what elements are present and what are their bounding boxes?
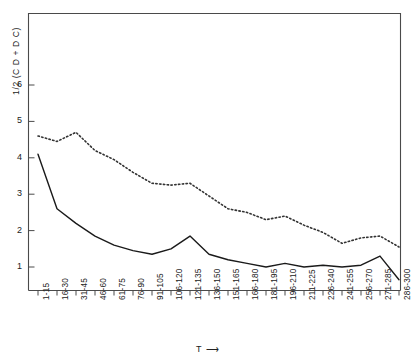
x-tick-label: 1-15 xyxy=(42,282,51,299)
y-tick-label: 1 xyxy=(6,261,22,271)
x-tick-label: 61-75 xyxy=(118,278,127,300)
series-dotted-upper xyxy=(38,132,399,247)
plot-area xyxy=(0,0,418,361)
x-tick-label: 16-30 xyxy=(61,278,70,300)
x-tick-label: 46-60 xyxy=(99,278,108,300)
x-tick-label: 166-180 xyxy=(251,268,260,299)
x-tick-label: 31-45 xyxy=(80,278,89,300)
x-tick-label: 136-150 xyxy=(213,268,222,299)
y-tick-label: 6 xyxy=(6,79,22,89)
x-tick-label: 211-225 xyxy=(308,269,317,300)
x-tick-label: 106-120 xyxy=(175,268,184,299)
x-tick-label: 226-240 xyxy=(327,268,336,299)
x-tick-label: 286-300 xyxy=(403,268,412,299)
x-tick-label: 181-195 xyxy=(270,268,279,299)
series-solid-lower xyxy=(38,154,399,280)
x-tick-label: 121-135 xyxy=(194,268,203,299)
y-tick-label: 5 xyxy=(6,115,22,125)
x-tick-label: 76-90 xyxy=(137,278,146,300)
y-tick-label: 3 xyxy=(6,188,22,198)
x-tick-label: 271-285 xyxy=(384,268,393,299)
x-tick-label: 241-255 xyxy=(346,268,355,299)
chart-container: 1/2 (C D + D C) 123456 1-1516-3031-4546-… xyxy=(0,0,418,361)
y-tick-label: 2 xyxy=(6,225,22,235)
axis-frame xyxy=(29,14,401,291)
x-tick-label: 151-165 xyxy=(232,268,241,299)
x-tick-label: 196-210 xyxy=(289,268,298,299)
y-tick-label: 4 xyxy=(6,152,22,162)
x-axis-title: T ⟶ xyxy=(196,344,220,354)
x-tick-label: 91-105 xyxy=(156,273,165,300)
x-tick-label: 256-270 xyxy=(365,268,374,299)
